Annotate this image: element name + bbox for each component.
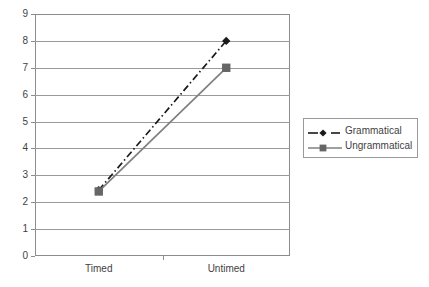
- legend-swatch-ungrammatical: [308, 140, 342, 152]
- y-axis-tick-label: 3: [22, 170, 28, 180]
- data-point-marker: [222, 64, 230, 72]
- data-series-layer: [35, 14, 290, 256]
- y-axis-tick-label: 1: [22, 224, 28, 234]
- y-axis-tick: [31, 256, 35, 257]
- legend-label-ungrammatical: Ungrammatical: [345, 140, 412, 151]
- y-axis-tick-label: 8: [22, 36, 28, 46]
- x-axis-tick: [163, 256, 164, 260]
- legend-item-grammatical: Grammatical: [308, 123, 412, 138]
- data-point-marker: [95, 187, 103, 195]
- x-axis-tick-label: Untimed: [208, 263, 245, 274]
- legend-label-grammatical: Grammatical: [345, 125, 402, 136]
- y-axis-tick-label: 0: [22, 251, 28, 261]
- y-axis-tick-label: 9: [22, 9, 28, 19]
- legend-swatch-grammatical: [308, 125, 342, 137]
- y-axis-tick-label: 5: [22, 117, 28, 127]
- y-axis-tick-label: 7: [22, 63, 28, 73]
- legend-item-ungrammatical: Ungrammatical: [308, 138, 412, 153]
- y-axis-tick-label: 2: [22, 197, 28, 207]
- series-line-grammatical: [99, 41, 227, 190]
- y-axis-tick-label: 4: [22, 143, 28, 153]
- chart-legend: Grammatical Ungrammatical: [303, 118, 418, 158]
- line-chart-figure: 0123456789 TimedUntimed Grammatical: [0, 0, 429, 287]
- plot-area: 0123456789 TimedUntimed: [35, 14, 290, 256]
- series-line-ungrammatical: [99, 68, 227, 192]
- x-axis-tick-label: Timed: [85, 263, 112, 274]
- y-axis-tick-label: 6: [22, 90, 28, 100]
